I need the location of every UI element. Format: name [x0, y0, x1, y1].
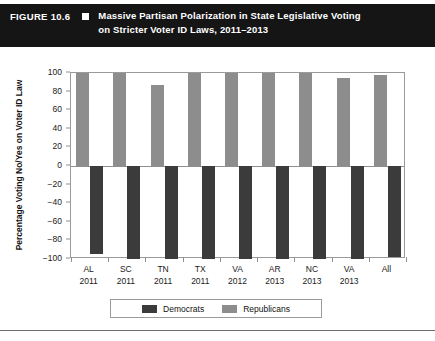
legend-label-democrats: Democrats [163, 304, 204, 314]
legend-item-republicans: Republicans [222, 304, 290, 314]
x-axis-category-state: TX [195, 264, 206, 274]
x-axis-category-state: NC [306, 264, 318, 274]
x-axis-category-state: AL [83, 264, 93, 274]
x-axis-category-state: AR [269, 264, 281, 274]
x-axis-category-state: VA [344, 264, 355, 274]
x-axis-category-year: 2013 [327, 276, 371, 288]
x-axis-category-state: SC [120, 264, 132, 274]
footer-divider [0, 330, 435, 331]
legend-label-republicans: Republicans [243, 304, 290, 314]
figure-container: FIGURE 10.6 Massive Partisan Polarizatio… [0, 0, 435, 341]
x-axis-category-state: All [382, 264, 391, 274]
legend-swatch-republicans [222, 305, 237, 313]
legend-item-democrats: Democrats [142, 304, 204, 314]
chart-legend: Democrats Republicans [110, 299, 322, 318]
x-axis-category-state: TN [157, 264, 168, 274]
x-axis-category: All [364, 264, 408, 276]
x-axis-category-state: VA [232, 264, 243, 274]
x-axis-labels: AL2011SC2011TN2011TX2011VA2012AR2013NC20… [0, 0, 435, 341]
legend-swatch-democrats [142, 305, 157, 313]
